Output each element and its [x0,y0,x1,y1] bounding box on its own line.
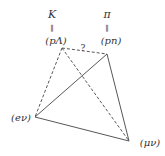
pL-label: (pΛ) [45,35,67,46]
edge-pn-ev [35,54,107,117]
tetrahedron-diagram: K ‖ (pΛ) π ‖ (pn) ? (eν) (μν) [0,0,165,156]
edge-ev-mv [35,117,129,141]
equiv-mark-k: ‖ [50,24,54,32]
pn-label: (pn) [101,35,122,46]
edge-pL-mv [62,48,129,141]
question-mark: ? [81,43,86,53]
equiv-mark-pi: ‖ [105,24,109,32]
edge-pn-mv [107,54,129,141]
pion-label: π [102,8,111,21]
kaon-label: K [47,8,57,21]
mv-label: (μν) [140,137,160,148]
ev-label: (eν) [11,112,31,123]
edge-pL-ev [35,48,62,117]
